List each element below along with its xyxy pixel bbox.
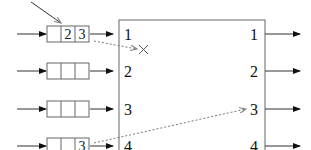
queue-cell: 2: [65, 27, 72, 42]
switch-fabric-box: [119, 20, 265, 150]
input-row-2: 2: [17, 63, 132, 80]
input-port-label: 4: [124, 138, 132, 150]
switch-diagram: 2 3 1 2 3 3 4 1 2 3 4: [0, 0, 311, 150]
input-queue: [47, 101, 89, 117]
queue-cell: 3: [79, 139, 86, 150]
output-port-label: 1: [250, 26, 258, 43]
output-port-label: 3: [250, 101, 258, 118]
head-pointer-arrow: [31, 2, 61, 23]
output-port-label: 2: [250, 63, 258, 80]
output-port-label: 4: [250, 138, 258, 150]
queue-cell: 3: [79, 27, 86, 42]
input-row-1: 2 3 1: [17, 26, 132, 43]
input-port-label: 1: [124, 26, 132, 43]
input-row-3: 3: [17, 101, 132, 118]
input-port-label: 3: [124, 101, 132, 118]
input-queue: [47, 63, 89, 79]
input-port-label: 2: [124, 63, 132, 80]
input-row-4: 3 4: [17, 138, 132, 150]
